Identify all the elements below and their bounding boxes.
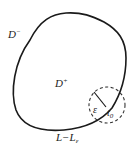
contour-diagram: D− D+ ε t0 L−Lε (0, 0, 136, 154)
label-epsilon: ε (93, 104, 97, 115)
label-d-minus: D− (7, 28, 21, 40)
label-l-minus-l-epsilon: L−Lε (55, 131, 79, 145)
label-d-plus: D+ (54, 77, 68, 89)
